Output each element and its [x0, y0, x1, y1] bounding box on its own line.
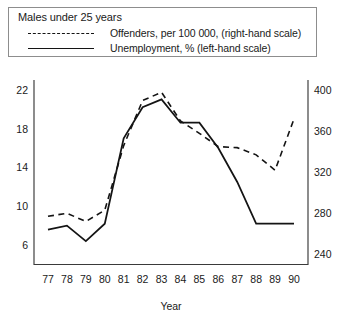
legend-title: Males under 25 years [18, 11, 122, 23]
plot-area: 610141822 240280320360400 77787980818283… [0, 60, 342, 323]
x-tick-85: 85 [194, 273, 206, 285]
x-axis-title: Year [160, 300, 182, 312]
x-tick-79: 79 [80, 273, 92, 285]
solid-line-swatch [28, 48, 94, 49]
x-tick-90: 90 [288, 273, 300, 285]
x-tick-88: 88 [250, 273, 262, 285]
left-tick-18: 18 [16, 123, 28, 135]
dashed-line-swatch [28, 33, 94, 34]
left-tick-10: 10 [16, 200, 28, 212]
left-axis-tick-labels: 610141822 [16, 84, 28, 251]
x-tick-80: 80 [99, 273, 111, 285]
right-tick-360: 360 [314, 125, 332, 137]
x-tick-83: 83 [156, 273, 168, 285]
right-tick-400: 400 [314, 84, 332, 96]
right-axis-tick-labels: 240280320360400 [314, 84, 332, 260]
right-tick-320: 320 [314, 166, 332, 178]
x-tick-77: 77 [42, 273, 54, 285]
x-tick-89: 89 [269, 273, 281, 285]
legend-item-offenders-label: Offenders, per 100 000, (right-hand scal… [110, 27, 301, 39]
x-axis-tick-labels: 7778798081828384858687888990 [42, 273, 300, 285]
series-line-unemployment [48, 99, 294, 241]
x-tick-78: 78 [61, 273, 73, 285]
left-axis-line [34, 80, 41, 265]
x-tick-84: 84 [175, 273, 187, 285]
left-tick-22: 22 [16, 84, 28, 96]
right-tick-240: 240 [314, 248, 332, 260]
left-tick-14: 14 [16, 161, 28, 173]
x-tick-86: 86 [212, 273, 224, 285]
x-tick-87: 87 [231, 273, 243, 285]
x-tick-82: 82 [137, 273, 149, 285]
right-axis-line [301, 80, 308, 265]
left-tick-6: 6 [22, 239, 28, 251]
chart-legend: Males under 25 years Offenders, per 100 … [8, 7, 317, 57]
x-tick-81: 81 [118, 273, 130, 285]
right-tick-280: 280 [314, 207, 332, 219]
chart-figure: Males under 25 years Offenders, per 100 … [0, 0, 342, 323]
legend-item-unemployment-label: Unemployment, % (left-hand scale) [110, 42, 271, 54]
